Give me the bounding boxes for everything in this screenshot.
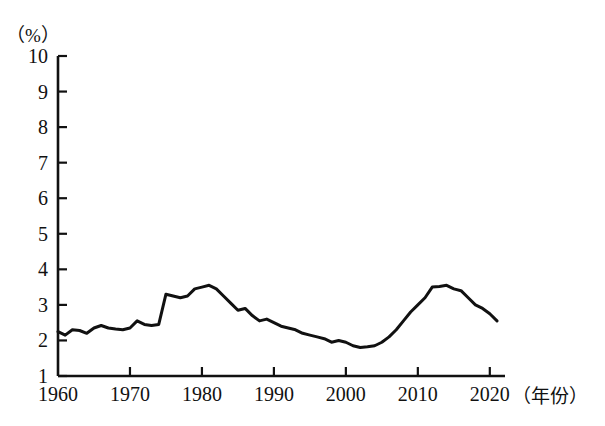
data-series-line	[58, 285, 497, 347]
y-axis-ticks	[58, 56, 67, 376]
plot-area	[0, 0, 605, 426]
x-axis-ticks	[130, 367, 490, 376]
chart-figure: （%） （年份） 10987654321 1960197019801990200…	[0, 0, 605, 426]
